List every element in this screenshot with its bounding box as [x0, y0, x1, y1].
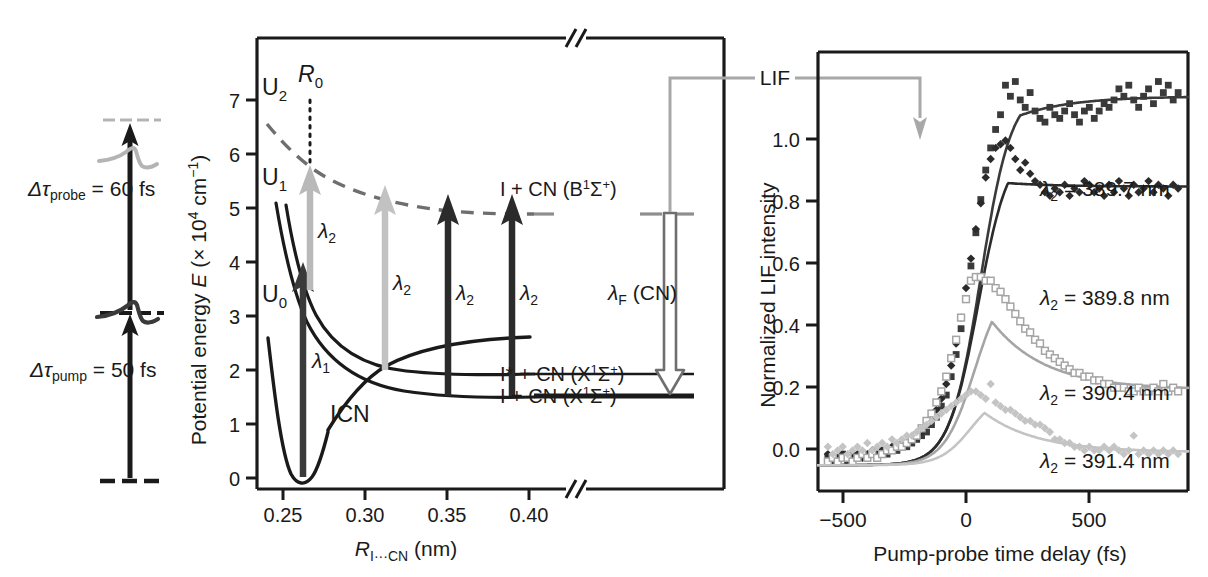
svg-text:500: 500: [1071, 508, 1106, 531]
svg-text:7: 7: [229, 90, 240, 112]
svg-text:0.30: 0.30: [346, 504, 385, 526]
series-label-389-8: λ2 = 389.8 nm: [1039, 286, 1170, 313]
series-label-389-7: λ2 = 389.7 nm: [1039, 177, 1170, 204]
icn-label: ICN: [330, 401, 370, 427]
state-label-b: I + CN (B1Σ+): [500, 177, 617, 200]
lif-y-axis-title: Normalized LIF intensity: [756, 182, 779, 408]
series-label-391-4: λ2 = 391.4 nm: [1039, 449, 1170, 476]
pump-duration-label: Δτpump = 50 fs: [29, 358, 156, 384]
lambda-f-label: λF (CN): [607, 281, 677, 308]
svg-text:0.0: 0.0: [772, 439, 800, 461]
series-label-390-4: λ2 = 390.4 nm: [1039, 381, 1170, 408]
svg-text:1: 1: [229, 414, 240, 436]
svg-text:6: 6: [229, 144, 240, 166]
svg-text:2: 2: [229, 360, 240, 382]
svg-text:5: 5: [229, 198, 240, 220]
svg-text:0.25: 0.25: [264, 504, 303, 526]
svg-text:−500: −500: [819, 508, 866, 531]
figure-root: Δτprobe = 60 fs Δτpump = 50 fs: [0, 0, 1208, 577]
svg-text:0.35: 0.35: [428, 504, 467, 526]
probe-duration-label: Δτprobe = 60 fs: [27, 177, 155, 203]
lif-x-axis-title: Pump-probe time delay (fs): [873, 542, 1126, 565]
svg-text:3: 3: [229, 306, 240, 328]
svg-text:4: 4: [229, 252, 240, 274]
svg-text:0: 0: [960, 508, 972, 531]
svg-text:1.0: 1.0: [772, 129, 800, 151]
svg-text:0.40: 0.40: [510, 504, 549, 526]
lif-connector-label: LIF: [760, 66, 790, 89]
state-label-ground: I + CN (X1Σ+): [500, 384, 617, 407]
state-label-istar: I* + CN (X1Σ+): [500, 362, 624, 385]
energy-y-axis-title: Potential energy E (× 104 cm−1): [185, 155, 210, 446]
svg-text:0: 0: [229, 468, 240, 490]
